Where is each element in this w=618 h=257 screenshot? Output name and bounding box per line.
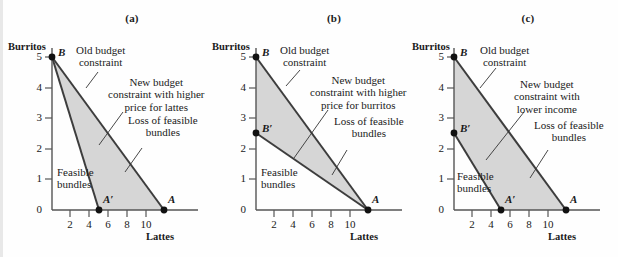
point-label-a-prime-c: A′ bbox=[505, 193, 515, 205]
x-tick-label-10-a: 10 bbox=[139, 218, 153, 230]
y-tick-label-5-a: 5 bbox=[28, 50, 42, 62]
y-tick-label-2-a: 2 bbox=[28, 142, 42, 154]
panel-a: (a) Burritos Lattes 5 4 bbox=[0, 0, 206, 257]
y-tick-label-4-c: 4 bbox=[430, 81, 444, 93]
panel-b: (b) Burritos Lattes 5 4 bbox=[206, 0, 412, 257]
point-label-a-c: A bbox=[570, 193, 577, 205]
y-tick-label-3-c: 3 bbox=[430, 111, 444, 123]
point-a-a bbox=[161, 207, 168, 214]
x-tick-label-2-a: 2 bbox=[63, 218, 77, 230]
point-b-b bbox=[253, 54, 260, 61]
x-tick-label-4-c: 4 bbox=[484, 218, 498, 230]
x-tick-label-8-b: 8 bbox=[324, 218, 338, 230]
loss-label-b: Loss of feasible bundles bbox=[334, 115, 404, 140]
point-label-b-a: B bbox=[58, 46, 65, 58]
x-tick-label-10-b: 10 bbox=[343, 218, 357, 230]
leader-old-b bbox=[286, 70, 300, 86]
x-tick-label-6-b: 6 bbox=[305, 218, 319, 230]
x-tick-label-6-c: 6 bbox=[503, 218, 517, 230]
new-constraint-label-c: New budget constraint with lower income bbox=[514, 78, 580, 115]
new-constraint-label-a: New budget constraint with higher price … bbox=[108, 76, 205, 113]
x-tick-label-4-a: 4 bbox=[82, 218, 96, 230]
x-axis-label-c: Lattes bbox=[548, 231, 576, 242]
point-label-b-prime-c: B′ bbox=[460, 122, 470, 134]
point-a-prime-a bbox=[96, 207, 103, 214]
point-label-b-b: B bbox=[262, 46, 269, 58]
y-tick-label-5-b: 5 bbox=[232, 50, 246, 62]
new-constraint-label-b: New budget constraint with higher price … bbox=[310, 74, 407, 111]
y-tick-label-0-a: 0 bbox=[28, 203, 42, 215]
point-label-a-prime-a: A′ bbox=[103, 193, 113, 205]
point-label-a-a: A bbox=[168, 193, 175, 205]
y-tick-label-1-c: 1 bbox=[430, 172, 444, 184]
y-tick-label-0-b: 0 bbox=[232, 203, 246, 215]
point-a-b bbox=[365, 207, 372, 214]
x-tick-label-2-b: 2 bbox=[267, 218, 281, 230]
x-tick-label-10-c: 10 bbox=[541, 218, 555, 230]
old-constraint-label-b: Old budget constraint bbox=[280, 44, 329, 69]
y-tick-label-1-a: 1 bbox=[28, 172, 42, 184]
point-a-prime-c bbox=[498, 207, 505, 214]
y-tick-label-2-b: 2 bbox=[232, 142, 246, 154]
point-label-a-b: A bbox=[372, 193, 379, 205]
y-tick-label-0-c: 0 bbox=[430, 203, 444, 215]
y-tick-label-1-b: 1 bbox=[232, 172, 246, 184]
x-tick-label-2-c: 2 bbox=[465, 218, 479, 230]
x-tick-label-4-b: 4 bbox=[286, 218, 300, 230]
old-constraint-label-c: Old budget constraint bbox=[480, 44, 529, 69]
y-tick-label-4-b: 4 bbox=[232, 81, 246, 93]
leader-old-a bbox=[86, 72, 98, 88]
x-tick-label-6-a: 6 bbox=[101, 218, 115, 230]
feasible-label-b: Feasible bundles bbox=[261, 166, 298, 191]
point-label-b-prime-b: B′ bbox=[262, 122, 272, 134]
point-a-c bbox=[563, 207, 570, 214]
point-b-prime-b bbox=[253, 130, 260, 137]
y-tick-label-5-c: 5 bbox=[430, 50, 444, 62]
budget-constraint-figure: (a) Burritos Lattes 5 4 bbox=[0, 0, 618, 257]
y-tick-label-3-a: 3 bbox=[28, 111, 42, 123]
feasible-label-c: Feasible bundles bbox=[457, 170, 494, 195]
panel-c: (c) Burritos Lattes 5 bbox=[412, 0, 618, 257]
y-tick-label-2-c: 2 bbox=[430, 142, 444, 154]
x-tick-label-8-c: 8 bbox=[522, 218, 536, 230]
feasible-label-a: Feasible bundles bbox=[57, 166, 94, 191]
x-axis-label-b: Lattes bbox=[350, 231, 378, 242]
point-b-c bbox=[451, 54, 458, 61]
point-b-prime-c bbox=[451, 130, 458, 137]
point-b-a bbox=[49, 54, 56, 61]
y-tick-label-3-b: 3 bbox=[232, 111, 246, 123]
x-tick-label-8-a: 8 bbox=[120, 218, 134, 230]
loss-label-a: Loss of feasible bundles bbox=[128, 114, 198, 139]
y-tick-label-4-a: 4 bbox=[28, 81, 42, 93]
x-axis-label-a: Lattes bbox=[146, 231, 174, 242]
old-constraint-label-a: Old budget constraint bbox=[76, 44, 125, 69]
leader-old-c bbox=[480, 68, 496, 88]
loss-label-c: Loss of feasible bundles bbox=[534, 119, 604, 144]
point-label-b-c: B bbox=[460, 46, 467, 58]
